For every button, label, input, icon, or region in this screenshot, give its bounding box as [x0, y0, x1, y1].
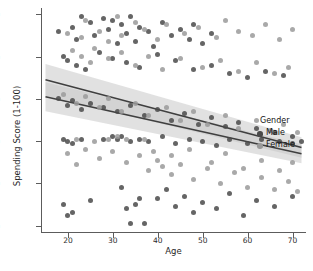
data-point	[83, 147, 88, 152]
data-point	[272, 204, 277, 209]
data-point	[128, 139, 133, 144]
data-point	[209, 160, 214, 165]
data-point	[155, 52, 160, 57]
data-point	[115, 14, 120, 19]
y-axis-label: Spending Score (1-100)	[12, 61, 22, 211]
data-point	[196, 25, 201, 30]
data-point	[191, 109, 196, 114]
data-point	[101, 105, 106, 110]
data-point	[205, 122, 210, 127]
data-point	[281, 122, 286, 127]
data-point	[83, 94, 88, 99]
data-point	[124, 31, 129, 36]
data-point	[209, 63, 214, 68]
data-point	[254, 118, 259, 123]
data-point	[119, 50, 124, 55]
data-point	[155, 158, 160, 163]
data-point	[277, 37, 282, 42]
data-point	[200, 200, 205, 205]
data-point	[236, 120, 241, 125]
data-point	[169, 172, 174, 177]
data-point	[146, 54, 151, 59]
data-point	[214, 35, 219, 40]
data-point	[70, 210, 75, 215]
data-point	[277, 168, 282, 173]
data-point	[254, 198, 259, 203]
data-point	[142, 137, 147, 142]
data-point	[169, 118, 174, 123]
data-point	[110, 149, 115, 154]
data-point	[155, 37, 160, 42]
data-point	[272, 71, 277, 76]
data-point	[295, 189, 300, 194]
data-point	[290, 141, 295, 146]
data-point	[110, 18, 115, 23]
scatter-plot-figure: GenderMaleFemale 020406080100 2030405060…	[0, 0, 313, 271]
x-tick-mark	[68, 233, 69, 238]
data-point	[97, 156, 102, 161]
data-point	[295, 130, 300, 135]
data-point	[250, 33, 255, 38]
data-point	[191, 177, 196, 182]
data-point	[133, 63, 138, 68]
data-point	[124, 60, 129, 65]
data-point	[272, 187, 277, 192]
data-point	[74, 101, 79, 106]
data-point	[56, 29, 61, 34]
data-point	[254, 126, 259, 131]
data-point	[245, 141, 250, 146]
data-point	[209, 31, 214, 36]
data-point	[259, 158, 264, 163]
data-point	[133, 39, 138, 44]
data-point	[97, 29, 102, 34]
data-point	[142, 221, 147, 226]
data-point	[65, 58, 70, 63]
y-tick-mark	[36, 14, 41, 15]
data-point	[74, 63, 79, 68]
data-point	[223, 18, 228, 23]
data-point	[151, 149, 156, 154]
data-point	[299, 139, 304, 144]
data-point	[70, 25, 75, 30]
data-point	[119, 22, 124, 27]
data-point	[106, 96, 111, 101]
x-tick-mark	[293, 233, 294, 238]
data-point	[101, 16, 106, 21]
data-point	[272, 130, 277, 135]
x-tick-mark	[158, 233, 159, 238]
data-point	[160, 164, 165, 169]
data-point	[88, 60, 93, 65]
data-point	[218, 181, 223, 186]
data-point	[268, 128, 273, 133]
data-point	[137, 65, 142, 70]
data-point	[223, 113, 228, 118]
y-tick-mark	[36, 141, 41, 142]
x-axis-label: Age	[41, 246, 306, 256]
data-point	[92, 139, 97, 144]
data-point	[119, 33, 124, 38]
data-point	[146, 168, 151, 173]
data-point	[218, 58, 223, 63]
data-point	[79, 54, 84, 59]
x-tick-mark	[203, 233, 204, 238]
data-point	[196, 122, 201, 127]
data-point	[178, 162, 183, 167]
y-axis-spine	[41, 8, 42, 233]
data-point	[137, 153, 142, 158]
data-point	[245, 185, 250, 190]
data-point	[133, 101, 138, 106]
data-point	[124, 206, 129, 211]
data-point	[173, 141, 178, 146]
data-point	[187, 137, 192, 142]
data-point	[56, 96, 61, 101]
data-point	[205, 166, 210, 171]
data-point	[106, 27, 111, 32]
data-point	[146, 29, 151, 34]
data-point	[223, 124, 228, 129]
data-point	[277, 139, 282, 144]
data-point	[124, 137, 129, 142]
data-point	[286, 65, 291, 70]
data-point	[106, 39, 111, 44]
data-point	[281, 73, 286, 78]
data-point	[88, 20, 93, 25]
